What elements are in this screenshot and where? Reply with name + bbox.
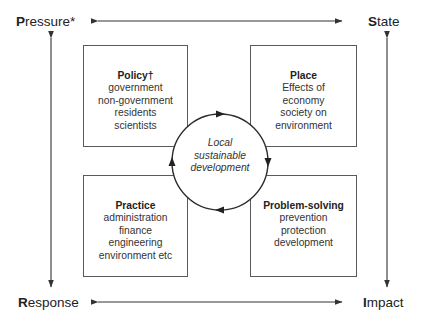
center-label-line: development [180,162,260,175]
center-label-line: Local [180,137,260,150]
center-label: Local sustainable development [180,137,260,175]
center-label-line: sustainable [180,150,260,163]
